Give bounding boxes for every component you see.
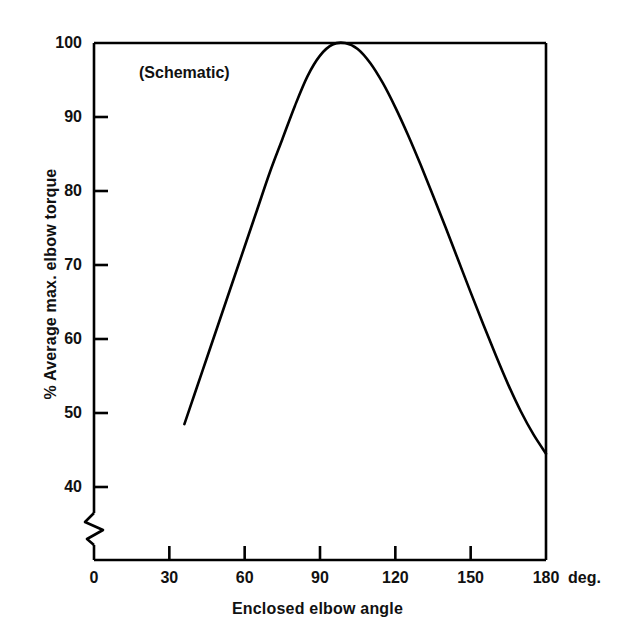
x-tick-label: 90 <box>311 569 329 587</box>
schematic-annotation: (Schematic) <box>139 64 230 82</box>
x-axis-unit-label: deg. <box>568 569 601 587</box>
tick-marks-group <box>94 117 471 560</box>
x-axis-title: Enclosed elbow angle <box>0 600 635 618</box>
x-tick-label: 60 <box>236 569 254 587</box>
y-tick-label: 80 <box>28 182 82 200</box>
chart-plot-area <box>0 0 635 640</box>
x-tick-label: 30 <box>160 569 178 587</box>
x-tick-label: 180 <box>533 569 560 587</box>
chart-figure: (Schematic) % Average max. elbow torque … <box>0 0 635 640</box>
y-tick-label: 100 <box>28 34 82 52</box>
y-tick-label: 50 <box>28 404 82 422</box>
y-axis-title: % Average max. elbow torque <box>42 134 60 434</box>
x-tick-label: 150 <box>457 569 484 587</box>
y-tick-label: 90 <box>28 108 82 126</box>
y-tick-label: 70 <box>28 256 82 274</box>
x-tick-label: 120 <box>382 569 409 587</box>
y-tick-label: 60 <box>28 330 82 348</box>
torque-curve <box>184 43 546 454</box>
axes-group <box>85 43 546 560</box>
y-tick-label: 40 <box>28 478 82 496</box>
x-tick-label: 0 <box>90 569 99 587</box>
